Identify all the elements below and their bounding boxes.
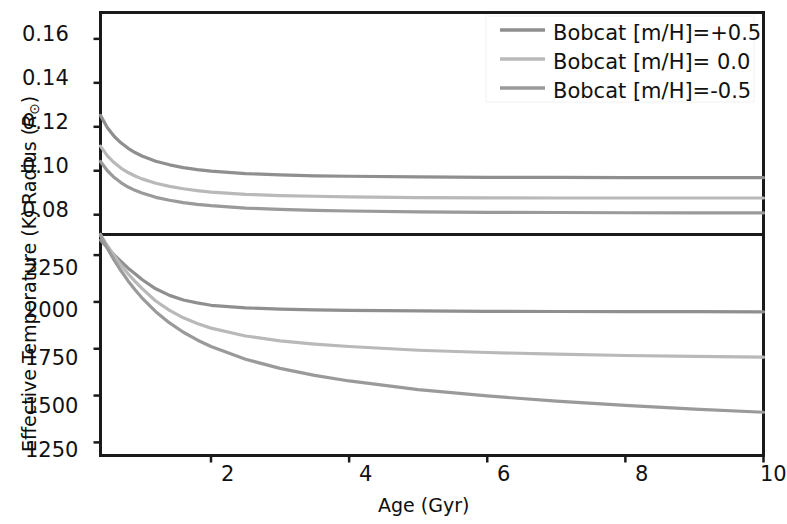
teff-axis-title: Effective Temperature (K) (18, 209, 40, 452)
radius-axis-title-suffix: ) (18, 96, 40, 103)
legend-label-2[interactable]: Bobcat [m/H]=-0.5 (553, 79, 751, 103)
radius-ytick-label-1: 0.14 (22, 66, 69, 90)
age-xtick-label-0: 2 (221, 462, 234, 486)
age-axis-title: Age (Gyr) (378, 494, 469, 516)
radius-ytick-label-0: 0.16 (22, 22, 69, 46)
age-xtick-label-2: 6 (497, 462, 510, 486)
legend-label-0[interactable]: Bobcat [m/H]=+0.5 (553, 21, 761, 45)
radius-axis-title: Radius (R⊙) (18, 96, 42, 205)
legend-label-1[interactable]: Bobcat [m/H]= 0.0 (553, 50, 750, 74)
age-xtick-label-1: 4 (359, 462, 372, 486)
radius-axis-title-symbol: R (18, 115, 40, 128)
radius-axis-title-prefix: Radius ( (18, 128, 40, 205)
radius-axis-title-subscript: ⊙ (26, 103, 42, 114)
age-xtick-label-3: 8 (635, 462, 648, 486)
age-xtick-label-4: 10 (760, 462, 787, 486)
